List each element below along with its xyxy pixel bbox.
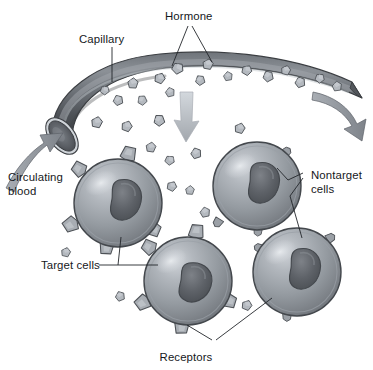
label-target-cells: Target cells [41,259,100,271]
label-hormone: Hormone [165,10,213,22]
label-nontarget-cells-line2: cells [311,183,334,195]
hormone-target-cell-diagram: Hormone Capillary Circulating blood Nont… [0,0,373,370]
label-nontarget-cells-line1: Nontarget [311,169,363,181]
diagram-canvas: Hormone Capillary Circulating blood Nont… [0,0,373,370]
label-capillary: Capillary [79,33,124,45]
label-circulating-blood-line2: blood [8,185,36,197]
label-receptors: Receptors [160,351,213,363]
label-circulating-blood-line1: Circulating [8,171,63,183]
